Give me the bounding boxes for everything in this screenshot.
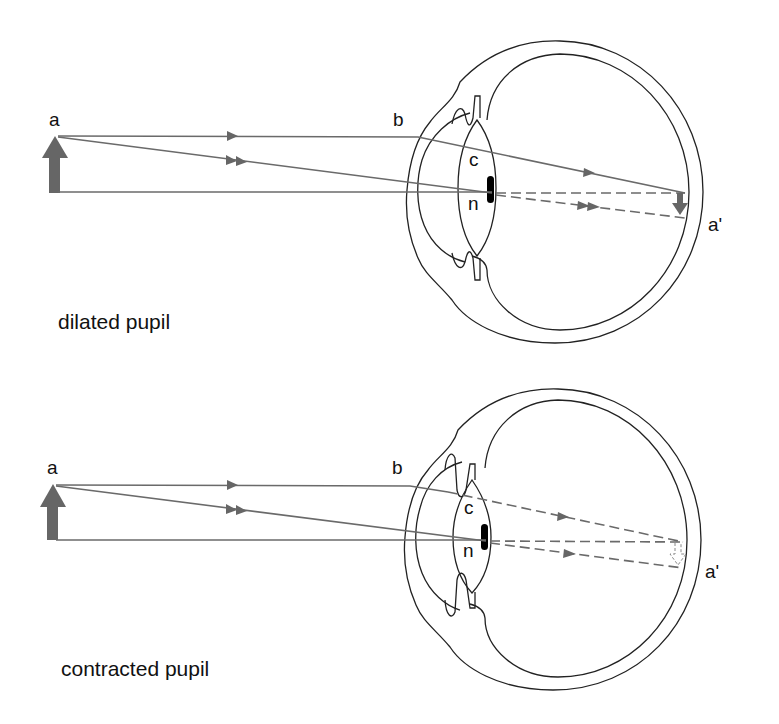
label-n: n [463, 540, 474, 561]
label-a-prime: a' [705, 561, 719, 582]
label-b: b [393, 109, 404, 130]
label-c: c [469, 149, 479, 170]
label-object-a: a [49, 109, 60, 130]
label-c: c [464, 497, 474, 518]
caption-contracted: contracted pupil [61, 657, 209, 680]
pupil-mark [487, 176, 494, 203]
label-object-a: a [47, 457, 58, 478]
image-arrow-dashed [670, 543, 686, 565]
image-arrow [672, 193, 688, 215]
object-arrow [40, 484, 66, 540]
eye-optics-diagram: a [0, 0, 779, 724]
panel-dilated: a [42, 41, 722, 343]
label-a-prime: a' [708, 214, 722, 235]
pupil-mark [481, 524, 488, 550]
rays [56, 480, 683, 568]
object-arrow [42, 136, 68, 193]
panel-contracted: a b c n a' [40, 389, 719, 690]
caption-dilated: dilated pupil [58, 310, 170, 333]
label-n: n [468, 193, 479, 214]
label-b: b [392, 457, 403, 478]
rays [58, 131, 685, 218]
